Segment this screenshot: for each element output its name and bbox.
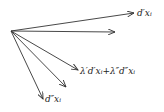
vector-arrow-d-prime <box>11 13 134 31</box>
label-d-prime-x: d′xᵢ <box>137 9 152 18</box>
vector-arrow-combination <box>11 31 78 70</box>
label-linear-combination: λ′d′xᵢ+λ″d″xᵢ <box>80 67 135 76</box>
label-d-double-prime-x: d″xᵢ <box>45 95 61 104</box>
vector-arrow-2 <box>11 31 115 32</box>
vector-arrow-4 <box>11 31 66 87</box>
vector-arrow-d-double-prime <box>11 31 43 99</box>
